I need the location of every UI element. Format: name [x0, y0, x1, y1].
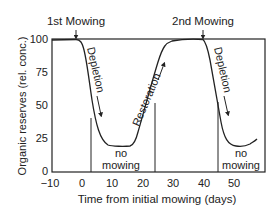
x-tick-label: 30	[167, 177, 179, 189]
no-mowing-label-2b: mowing	[222, 159, 260, 171]
x-tick-label: 0	[79, 177, 85, 189]
depletion-label-1: Depletion	[85, 46, 107, 94]
x-tick-label: −10	[41, 177, 60, 189]
second-mowing-label: 2nd Mowing	[172, 15, 234, 27]
x-tick-label: 20	[137, 177, 149, 189]
x-tick-label: 10	[106, 177, 118, 189]
y-tick-label: 75	[36, 66, 48, 78]
organic-reserves-chart: 0 25 50 75 100 −10 0 10 20 30 40 50 Time…	[0, 0, 276, 213]
x-tick-label: 40	[198, 177, 210, 189]
y-tick-label: 100	[30, 33, 48, 45]
first-mowing-label: 1st Mowing	[47, 15, 105, 27]
x-tick-label: 50	[228, 177, 240, 189]
y-tick-label: 25	[36, 132, 48, 144]
depletion-arrow-1	[97, 96, 101, 115]
x-axis-title: Time from initial mowing (days)	[78, 193, 237, 205]
depletion-label-2: Depletion	[212, 46, 234, 94]
y-axis-title: Organic reserves (rel. conc.)	[16, 37, 28, 176]
no-mowing-label-1a: no	[115, 147, 127, 159]
y-tick-label: 0	[42, 165, 48, 177]
y-axis: 0 25 50 75 100	[30, 33, 48, 177]
x-axis: −10 0 10 20 30 40 50	[41, 177, 240, 189]
y-tick-label: 50	[36, 99, 48, 111]
no-mowing-label-2a: no	[235, 147, 247, 159]
depletion-arrow-2	[224, 96, 228, 114]
no-mowing-label-1b: mowing	[102, 159, 140, 171]
